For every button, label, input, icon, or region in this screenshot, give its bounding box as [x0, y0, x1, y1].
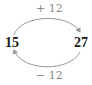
number-cycle-diagram: + 12 15 27 − 12 — [0, 0, 92, 85]
right-number: 27 — [74, 36, 88, 50]
bottom-arrow-label: − 12 — [36, 70, 63, 81]
top-arrow-label: + 12 — [36, 3, 63, 14]
bottom-arrow — [14, 50, 80, 67]
top-arrow — [14, 18, 80, 35]
left-number: 15 — [5, 36, 19, 50]
